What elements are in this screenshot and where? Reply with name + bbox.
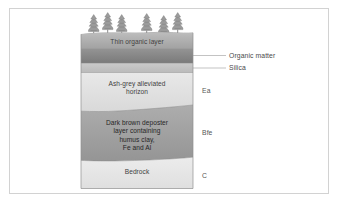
leader-lines [193,56,226,69]
layer-label-thin-organic-layer: Thin organic layer [81,38,193,46]
callout-label-organic-matter: Organic matter [229,52,275,60]
layer-organic-matter-band [81,49,193,64]
conifer-tree-icon [173,13,183,34]
figure-frame: Thin organic layer Ash-grey alleviated h… [9,8,329,194]
horizon-code-bfe: Bfe [202,129,213,137]
conifer-tree-icon [103,13,113,34]
soil-column [81,32,193,188]
layer-label-dark-brown-deposit: Dark brown deposter layer containing hum… [81,119,193,153]
layer-label-ash-grey-horizon: Ash-grey alleviated horizon [81,80,193,97]
horizon-code-ea: Ea [202,87,211,95]
callout-label-silica: Silica [229,64,246,72]
conifer-tree-icon [89,15,99,36]
layer-label-bedrock: Bedrock [81,168,193,176]
layer-silica-band [81,63,193,72]
conifer-tree-icon [142,14,152,35]
horizon-code-c: C [202,172,207,180]
